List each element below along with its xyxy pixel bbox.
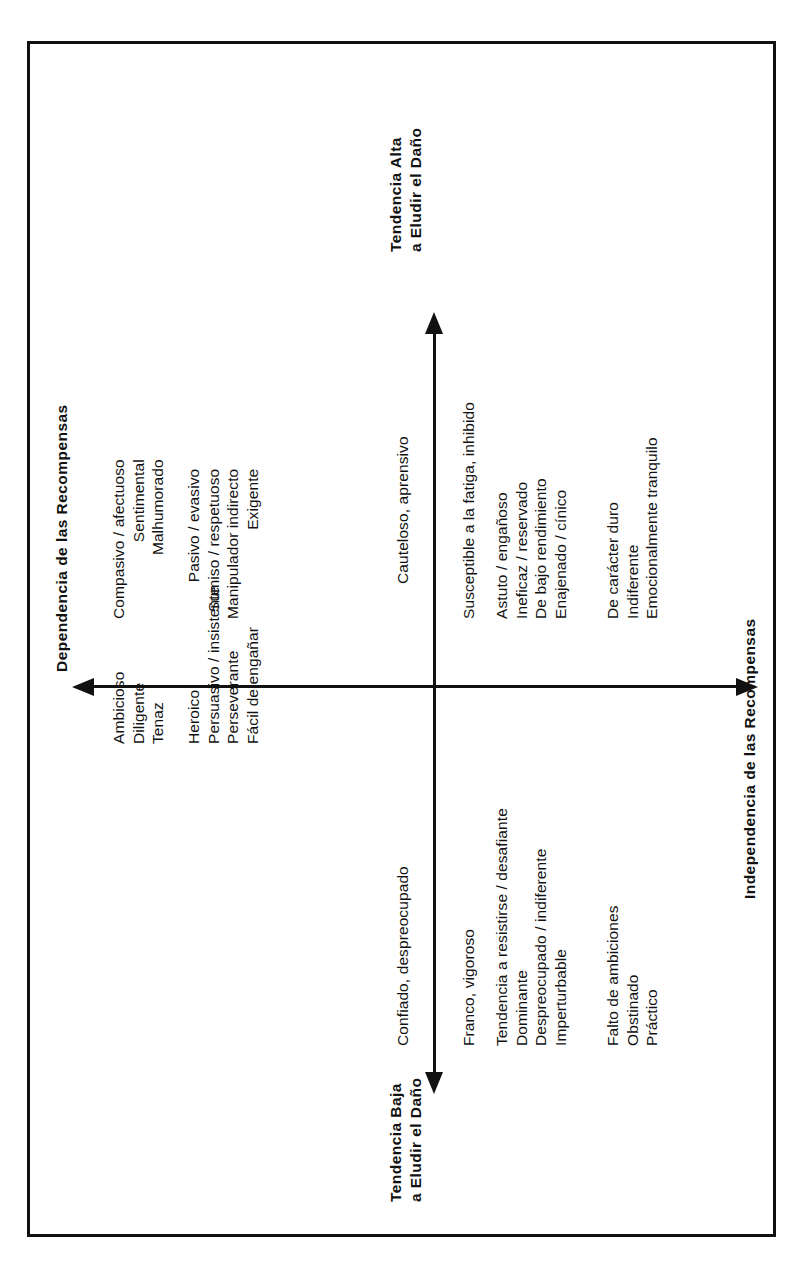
quadrant-upper-right-group-b: Astuto / engañoso Ineficaz / reservado D… (492, 478, 570, 619)
pole-descriptor-cauteloso: Cauteloso, aprensivo (393, 436, 413, 584)
quadrant-upper-right-group-a: Susceptible a la fatiga, inhibido (459, 402, 479, 619)
axis-label-tendencia-alta: Tendencia Alta a Eludir el Daño (386, 128, 425, 252)
axis-label-independencia-recompensas: Independencia de las Recompensas (740, 618, 760, 899)
axis-label-tendencia-baja: Tendencia Baja a Eludir el Daño (386, 1078, 425, 1202)
arrow-left-icon (72, 678, 94, 696)
quadrant-lower-right-group-b: Tendencia a resistirse / desafiante Domi… (492, 808, 570, 1046)
quadrant-lower-right-group-c: Falto de ambiciones Obstinado Práctico (603, 905, 662, 1046)
quadrant-lower-left-group-a: Ambicioso Diligente Tenaz (109, 672, 168, 744)
vertical-axis-line (433, 327, 436, 1075)
diagram-frame: Tendencia Alta a Eludir el Daño Tendenci… (27, 41, 776, 1237)
axis-label-dependencia-recompensas: Dependencia de las Recompensas (52, 404, 72, 672)
quadrant-upper-left-group-a: Compasivo / afectuoso Sentimental Malhum… (109, 459, 168, 619)
quadrant-lower-left-group-b: Heroico Persuasivo / insistente Persever… (184, 587, 262, 744)
quadrant-lower-right-group-a: Franco, vigoroso (459, 929, 479, 1046)
arrow-down-icon (425, 1072, 443, 1094)
pole-descriptor-confiado: Confiado, despreocupado (393, 866, 413, 1046)
arrow-up-icon (425, 312, 443, 334)
quadrant-upper-right-group-c: De carácter duro Indiferente Emocionalme… (603, 437, 662, 619)
